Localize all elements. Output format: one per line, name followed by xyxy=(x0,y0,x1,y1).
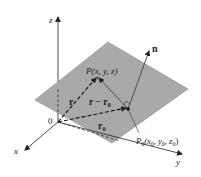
normal-label: n xyxy=(152,43,158,54)
vector-r-minus-r0-label: r − r0 xyxy=(89,97,111,108)
origin-label: 0 xyxy=(48,116,53,126)
point-P xyxy=(95,76,98,79)
x-axis-label: x xyxy=(13,146,18,156)
y-axis-label: y xyxy=(175,157,180,167)
x-axis xyxy=(25,122,58,150)
point-P0 xyxy=(126,107,130,111)
plane-diagram: z x y 0 n P(x, y, z) r r − r0 r0 P0(x0, … xyxy=(0,0,201,177)
vector-r-label: r xyxy=(69,96,74,107)
z-axis-label: z xyxy=(48,15,53,25)
point-P-label: P(x, y, z) xyxy=(85,66,118,76)
point-P0-label: P0(x0, y0, z0) xyxy=(135,136,178,147)
